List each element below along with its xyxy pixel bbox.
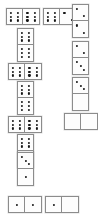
- domino-half-6: [9, 117, 25, 132]
- pip: [19, 120, 21, 122]
- domino-half-6: [23, 9, 39, 24]
- pip: [12, 70, 14, 72]
- pip: [21, 32, 23, 34]
- pip: [24, 176, 26, 178]
- domino-half-1: [46, 197, 62, 212]
- pip: [33, 19, 35, 21]
- pip: [35, 120, 37, 122]
- pip: [76, 61, 78, 63]
- pip: [21, 101, 23, 103]
- pip: [12, 74, 14, 76]
- pip: [21, 109, 23, 111]
- pip: [28, 35, 30, 37]
- pip: [15, 203, 17, 205]
- domino-half-6: [44, 9, 60, 24]
- pip: [28, 67, 30, 69]
- pip: [83, 88, 85, 90]
- pip: [19, 70, 21, 72]
- pip: [83, 31, 85, 33]
- pip: [28, 32, 30, 34]
- pip: [28, 138, 30, 140]
- pip: [21, 156, 23, 158]
- pip: [26, 12, 28, 14]
- domino-3-1-left-vertical-bottom[interactable]: [17, 152, 34, 186]
- pip: [21, 92, 23, 94]
- domino-half-3: [18, 153, 33, 169]
- pip: [33, 12, 35, 14]
- pip: [17, 19, 19, 21]
- pip: [76, 8, 78, 10]
- domino-6-6-left-vertical-middle[interactable]: [17, 81, 34, 115]
- pip: [28, 74, 30, 76]
- pip: [21, 141, 23, 143]
- pip: [21, 39, 23, 41]
- domino-half-2: [73, 21, 88, 37]
- pip: [19, 127, 21, 129]
- pip: [76, 45, 78, 47]
- pip: [28, 109, 30, 111]
- pip: [35, 74, 37, 76]
- pip: [47, 19, 49, 21]
- pip: [35, 67, 37, 69]
- domino-2-3-right-middle[interactable]: [72, 41, 89, 75]
- pip: [28, 145, 30, 147]
- pip: [19, 67, 21, 69]
- pip: [47, 15, 49, 17]
- domino-half-6: [9, 64, 25, 79]
- domino-half-2: [73, 42, 88, 58]
- pip: [63, 12, 65, 14]
- pip: [10, 15, 12, 17]
- pip: [12, 67, 14, 69]
- pip: [21, 48, 23, 50]
- domino-half-6: [18, 98, 33, 114]
- pip: [19, 74, 21, 76]
- domino-2-2-right-upper[interactable]: [72, 4, 89, 38]
- domino-half-6: [7, 9, 23, 24]
- domino-6-6-left-horizontal-lower[interactable]: [8, 116, 42, 133]
- pip: [83, 69, 85, 71]
- domino-6-6-left-horizontal-upper[interactable]: [8, 63, 42, 80]
- pip: [21, 138, 23, 140]
- pip: [26, 15, 28, 17]
- domino-6-6-left-upper-vertical[interactable]: [17, 28, 34, 62]
- pip: [21, 52, 23, 54]
- dominoes-board: [0, 0, 98, 222]
- pip: [83, 52, 85, 54]
- domino-half-2: [73, 5, 88, 21]
- pip: [21, 35, 23, 37]
- domino-half-0: [62, 197, 78, 212]
- pip: [76, 24, 78, 26]
- pip: [21, 85, 23, 87]
- pip: [32, 203, 34, 205]
- pip: [28, 56, 30, 58]
- pip: [28, 39, 30, 41]
- pip: [10, 19, 12, 21]
- pip: [28, 127, 30, 129]
- pip: [83, 15, 85, 17]
- pip: [24, 159, 26, 161]
- domino-half-6: [18, 29, 33, 45]
- pip: [79, 84, 81, 86]
- domino-0-0-right-bottom[interactable]: [64, 113, 98, 130]
- domino-half-1: [9, 197, 25, 212]
- pip: [28, 101, 30, 103]
- pip: [19, 123, 21, 125]
- domino-1-1-bottom-left[interactable]: [8, 196, 42, 213]
- domino-half-6: [25, 117, 41, 132]
- domino-3-0-right-lower[interactable]: [72, 77, 89, 111]
- domino-1-0-bottom-right[interactable]: [45, 196, 79, 213]
- domino-half-0: [73, 94, 88, 110]
- domino-half-1: [25, 197, 41, 212]
- pip: [28, 48, 30, 50]
- pip: [28, 105, 30, 107]
- pip: [10, 12, 12, 14]
- pip: [28, 85, 30, 87]
- pip: [28, 88, 30, 90]
- pip: [35, 70, 37, 72]
- domino-half-3: [73, 78, 88, 94]
- domino-6-6-top-left[interactable]: [6, 8, 40, 25]
- pip: [17, 15, 19, 17]
- pip: [28, 163, 30, 165]
- pip: [17, 12, 19, 14]
- domino-half-6: [18, 82, 33, 98]
